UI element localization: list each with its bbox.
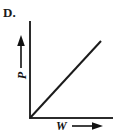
figure-panel: D. P W [0,0,120,140]
up-arrow-icon [17,35,25,68]
x-axis-label: W [56,120,67,133]
right-arrow-icon [72,122,103,130]
y-axis-label: P [16,66,29,86]
data-line-linear [30,41,101,118]
